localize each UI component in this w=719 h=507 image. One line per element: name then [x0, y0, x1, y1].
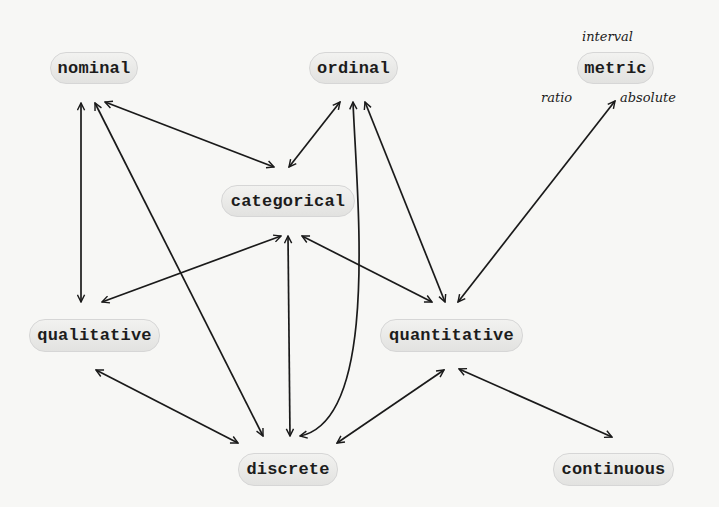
edge-qualitative-discrete [96, 370, 238, 443]
edge-categorical-qualitative [102, 236, 281, 302]
node-nominal: nominal [50, 52, 138, 84]
node-quantitative: quantitative [380, 319, 523, 352]
metric-sublabel-absolute: absolute [620, 90, 676, 105]
diagram-canvas: nominal ordinal metric categorical quali… [0, 0, 719, 507]
node-label: discrete [246, 460, 329, 479]
node-label: continuous [561, 460, 665, 479]
node-discrete: discrete [238, 453, 338, 486]
node-categorical: categorical [221, 185, 355, 217]
metric-sublabel-ratio: ratio [541, 90, 572, 105]
edge-categorical-discrete [288, 236, 290, 436]
edge-ordinal-quantitative [365, 102, 445, 302]
node-label: nominal [58, 59, 131, 78]
edge-categorical-quantitative [302, 236, 432, 302]
node-label: metric [584, 59, 646, 78]
node-label: categorical [231, 192, 345, 211]
edge-quantitative-continuous [459, 369, 612, 437]
node-ordinal: ordinal [309, 52, 398, 84]
node-qualitative: qualitative [29, 319, 160, 352]
node-label: qualitative [37, 326, 151, 345]
node-metric: metric [577, 52, 654, 84]
edge-absolute-quantitative [458, 101, 615, 302]
node-continuous: continuous [553, 453, 674, 486]
node-label: ordinal [317, 59, 390, 78]
edge-ordinal-discrete [300, 102, 359, 436]
metric-sublabel-interval: interval [582, 29, 633, 44]
node-label: quantitative [389, 326, 514, 345]
edge-nominal-categorical [105, 102, 274, 167]
edge-quantitative-discrete [337, 370, 444, 443]
edge-ordinal-categorical [289, 102, 340, 167]
